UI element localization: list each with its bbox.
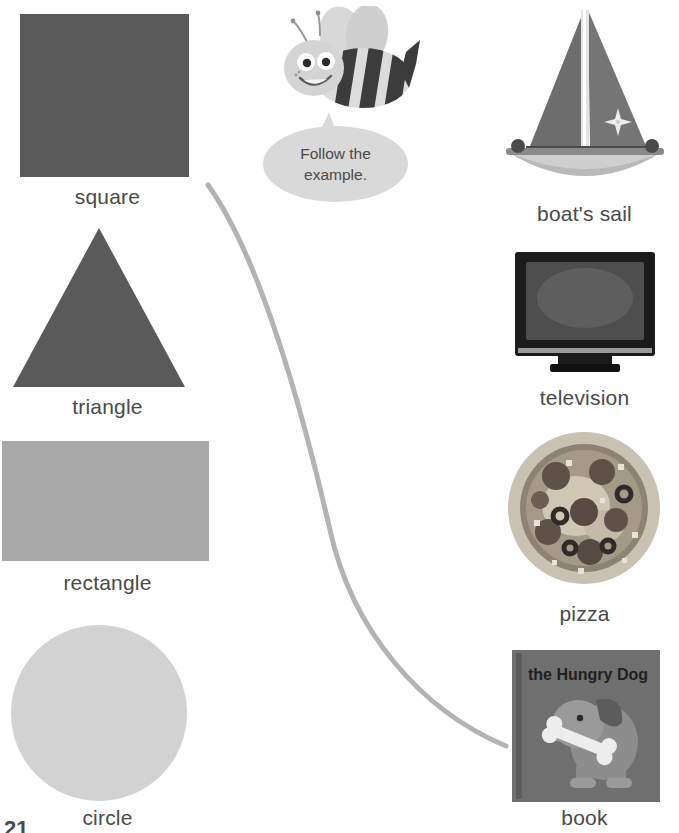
speech-bubble-text: Follow the example. [300,143,371,185]
bee-icon [260,6,420,114]
speech-bubble-line-1: Follow the [300,143,371,164]
picture-label-book: book [490,806,679,830]
speech-bubble-line-2: example. [300,164,371,185]
book-icon: the Hungry Dog [512,650,660,802]
bee-mascot [260,6,420,114]
circle-shape[interactable] [11,625,187,801]
picture-item-book[interactable]: the Hungry Dog book [490,0,679,833]
book-title-text: the Hungry Dog [528,666,648,683]
speech-bubble-body: Follow the example. [263,126,408,202]
mascot-column: Follow the example. [215,0,490,833]
shape-label-circle: circle [0,806,215,830]
shape-item-circle[interactable]: circle [0,0,215,833]
book-image[interactable]: the Hungry Dog [512,650,660,802]
pictures-column: boat's sail television [490,0,679,833]
speech-bubble: Follow the example. [263,112,408,202]
page-number: 21 [4,816,28,833]
worksheet-page: square triangle rectangle circle 21 [0,0,679,833]
shapes-column: square triangle rectangle circle 21 [0,0,215,833]
